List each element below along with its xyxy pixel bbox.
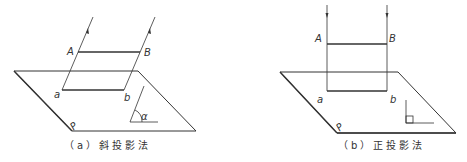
- label-A: A: [66, 46, 74, 57]
- label-A: A: [314, 33, 322, 44]
- arrow-icon: [148, 28, 151, 34]
- arrow-icon: [326, 13, 329, 18]
- right-angle-icon: [406, 116, 413, 123]
- label-plane-P: P: [68, 119, 80, 132]
- label-a: a: [317, 94, 323, 105]
- label-b: b: [124, 92, 130, 103]
- label-B: B: [389, 33, 396, 44]
- arrow-icon: [386, 13, 389, 18]
- arrow-icon: [86, 28, 89, 34]
- projection-plane: [280, 72, 456, 133]
- label-B: B: [144, 47, 151, 58]
- caption-b: （b）正投影法: [338, 139, 425, 151]
- label-a: a: [54, 89, 60, 100]
- label-alpha: α: [141, 111, 148, 122]
- projection-diagram: A B a b P α （a）斜投影法 A B a b P （b）正投影法: [0, 0, 467, 162]
- label-b: b: [390, 94, 396, 105]
- caption-a: （a）斜投影法: [64, 139, 151, 151]
- figure-oblique-projection: A B a b P α （a）斜投影法: [14, 17, 196, 151]
- figure-orthographic-projection: A B a b P （b）正投影法: [280, 5, 456, 151]
- projection-plane: [14, 71, 196, 131]
